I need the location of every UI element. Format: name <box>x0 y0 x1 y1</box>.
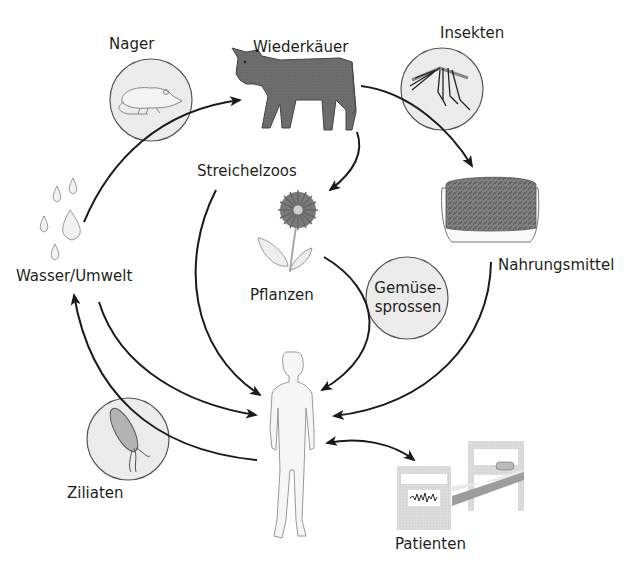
cow-icon <box>232 48 356 130</box>
transmission-diagram: Nager Wiederkäuer Insekten Streichelzoos… <box>0 0 635 565</box>
label-nahrungsmittel: Nahrungsmittel <box>498 256 614 274</box>
label-insekten: Insekten <box>440 24 504 42</box>
label-streichelzoos: Streichelzoos <box>197 162 297 180</box>
water-drops-icon <box>40 178 80 260</box>
label-ziliaten: Ziliaten <box>67 484 124 502</box>
label-gemuesesprossen-line1: Gemüse- <box>368 279 448 298</box>
nager-bubble <box>110 59 192 141</box>
arrow-mensch-patienten <box>327 440 414 460</box>
arrow-pflanzen-to-mensch <box>322 257 370 390</box>
food-tray-icon <box>441 177 538 242</box>
ziliaten-bubble <box>87 398 169 480</box>
label-wasser-umwelt: Wasser/Umwelt <box>16 267 132 285</box>
label-nager: Nager <box>109 35 154 53</box>
label-pflanzen: Pflanzen <box>250 286 314 304</box>
label-patienten: Patienten <box>395 535 466 553</box>
flower-icon <box>258 190 318 272</box>
label-gemuesesprossen: Gemüse- sprossen <box>368 279 448 317</box>
insekten-bubble <box>401 48 483 130</box>
human-figure-icon <box>270 352 314 538</box>
label-gemuesesprossen-line2: sprossen <box>368 298 448 317</box>
hospital-bed-icon <box>397 441 524 530</box>
label-wiederkaeuer: Wiederkäuer <box>253 38 348 56</box>
arrow-wiederkaeuer-to-pflanzen <box>330 132 359 190</box>
